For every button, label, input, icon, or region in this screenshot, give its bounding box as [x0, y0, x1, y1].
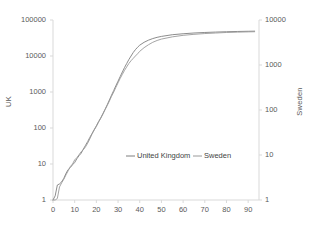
chart-container: UK Sweden 100000 10000 1000 100 10 1 100…: [0, 0, 311, 228]
series-line-united-kingdom: [53, 31, 255, 200]
series-line-sweden: [53, 32, 255, 200]
plot-area: [0, 0, 311, 228]
